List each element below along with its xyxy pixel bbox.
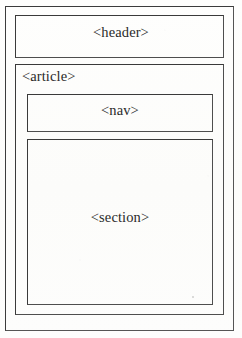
- scan-speck: [192, 296, 194, 298]
- section-label: <section>: [27, 209, 213, 226]
- header-label: <header>: [0, 24, 242, 41]
- nav-label: <nav>: [27, 102, 213, 119]
- article-label: <article>: [22, 68, 75, 85]
- diagram-canvas: <header> <article> <nav> <section>: [0, 0, 242, 338]
